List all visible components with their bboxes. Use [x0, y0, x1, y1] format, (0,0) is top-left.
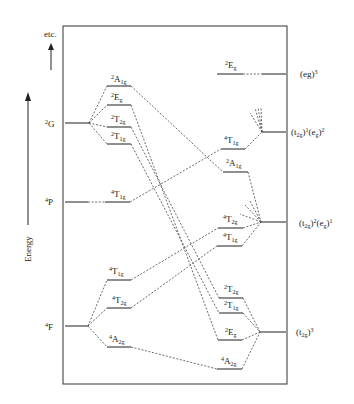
label-4A2g-4F: 4A2g — [109, 334, 125, 345]
term-4F: 4F — [45, 322, 53, 332]
config-t2g1-eg2: (t2g)1(eg)2 — [291, 127, 325, 138]
label-2T2g-left: 2T2g — [111, 114, 126, 125]
label-2A1g-left: 2A1g — [111, 74, 127, 85]
label-4T2g-right: 4T2g — [223, 214, 238, 225]
config-t2g3: (t2g)3 — [296, 327, 314, 338]
label-2T1g-left: 2T1g — [111, 131, 126, 142]
energy-label: Energy — [23, 236, 33, 262]
label-4T2g-4F: 4T2g — [112, 295, 127, 306]
label-2Eg-top: 2Eg — [225, 60, 237, 71]
label-2T1g-right: 2T1g — [224, 300, 239, 311]
config-t2g2-eg1: (t2g)2(eg)1 — [299, 218, 333, 229]
term-4P: 4P — [45, 197, 53, 207]
etc-label: etc. — [44, 29, 57, 39]
energy-axis: etc. Energy — [23, 29, 57, 262]
etc-arrow-icon — [48, 43, 54, 50]
label-2T2g-right: 2T2g — [224, 284, 239, 295]
label-4T1g-4P: 4T1g — [111, 189, 126, 200]
label-2Eg-left: 2Eg — [111, 92, 123, 103]
correlation-diagram: etc. Energy 2G 4P 4F 2A1g 2Eg 2T2g 2T1g … — [0, 0, 354, 404]
correlation-lines — [130, 86, 223, 369]
term-2G: 2G — [45, 119, 55, 129]
config-eg3: (eg)3 — [300, 69, 318, 79]
label-2A1g-right: 2A1g — [226, 158, 242, 169]
label-2Eg-right: 2Eg — [225, 327, 237, 338]
label-4T1g-right-lower: 4T1g — [223, 232, 238, 243]
free-ion-terms: 2G 4P 4F — [45, 119, 55, 332]
label-4A2g-right: 4A2g — [221, 356, 237, 367]
energy-arrow-icon — [25, 92, 31, 101]
diagram-frame — [63, 26, 287, 384]
label-4T1g-4F: 4T1g — [109, 266, 124, 277]
label-4T1g-right-upper: 4T1g — [224, 135, 239, 146]
